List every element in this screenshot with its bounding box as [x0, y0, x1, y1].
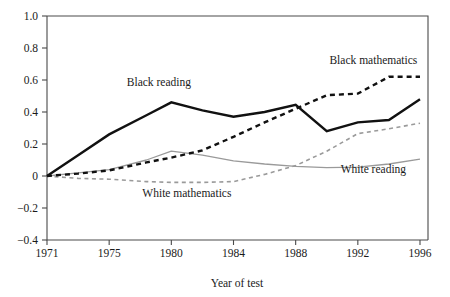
x-tick-label: 1996	[409, 247, 432, 259]
x-tick-label: 1975	[98, 247, 121, 259]
chart-container: 1.00.80.60.40.20−0.2−0.4 197119751980198…	[0, 0, 450, 297]
y-tick-label: 0.8	[24, 42, 39, 54]
series-label-white-reading: White reading	[341, 163, 407, 176]
x-tick-label: 1980	[160, 247, 183, 259]
series-label-black-mathematics: Black mathematics	[329, 54, 417, 66]
line-chart: 1.00.80.60.40.20−0.2−0.4 197119751980198…	[0, 0, 450, 297]
x-axis-title: Year of test	[211, 277, 264, 289]
x-tick-label: 1992	[346, 247, 369, 259]
y-tick-label: 1.0	[24, 10, 39, 22]
series-label-black-reading: Black reading	[127, 76, 191, 89]
y-tick-label: 0	[32, 170, 38, 182]
y-tick-label: 0.4	[24, 106, 39, 118]
y-tick-label: 0.6	[24, 74, 39, 86]
x-tick-label: 1988	[284, 247, 307, 259]
x-tick-label: 1984	[222, 247, 245, 259]
series-label-white-mathematics: White mathematics	[142, 187, 232, 199]
y-tick-label: −0.2	[17, 202, 38, 214]
y-tick-label: −0.4	[17, 234, 38, 246]
x-tick-label: 1971	[36, 247, 59, 259]
y-tick-label: 0.2	[24, 138, 39, 150]
